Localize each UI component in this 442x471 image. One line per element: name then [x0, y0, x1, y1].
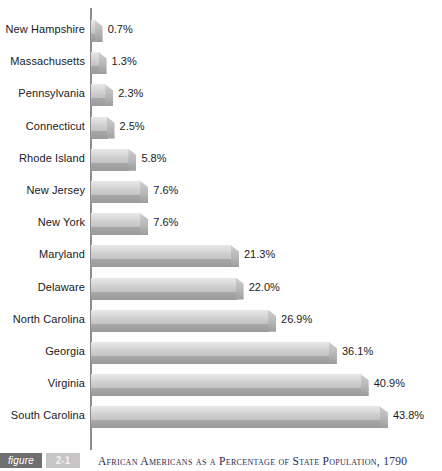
bar-category-label: Rhode Island: [0, 152, 85, 165]
bar-shadow-face: [91, 131, 108, 139]
bar-shadow-face: [91, 259, 232, 267]
bar-category-label: Delaware: [0, 281, 85, 294]
bar: [91, 117, 108, 141]
bar-category-label: Pennsylvania: [0, 87, 85, 100]
figure-caption-title: African Americans as a Percentage of Sta…: [98, 455, 407, 467]
bar-end-cap: [105, 84, 113, 106]
bar-shadow-face: [91, 388, 362, 396]
bar-end-cap: [268, 310, 276, 332]
bar: [91, 245, 232, 269]
bar-row: South Carolina43.8%: [0, 406, 442, 439]
bar-top-face: [91, 406, 381, 420]
bar-row: North Carolina26.9%: [0, 310, 442, 343]
figure-label-tag: figure: [0, 453, 42, 468]
bar-shadow-face: [91, 356, 330, 364]
bar-end-cap: [128, 149, 136, 171]
bar-top-face: [91, 213, 141, 227]
bar-row: New York7.6%: [0, 213, 442, 246]
bar-top-face: [91, 84, 106, 98]
bar-category-label: Georgia: [0, 345, 85, 358]
bar-top-face: [91, 310, 269, 324]
bar-category-label: Connecticut: [0, 120, 85, 133]
bar-end-cap: [236, 278, 244, 300]
bar: [91, 52, 100, 76]
bar-value-label: 43.8%: [393, 409, 424, 422]
bar-value-label: 40.9%: [374, 377, 405, 390]
bar-category-label: Maryland: [0, 248, 85, 261]
bar-shadow-face: [91, 324, 269, 332]
bar-end-cap: [99, 52, 107, 74]
bar: [91, 406, 381, 430]
bar-value-label: 7.6%: [153, 184, 178, 197]
bar-top-face: [91, 342, 330, 356]
bar-category-label: Massachusetts: [0, 55, 85, 68]
bar: [91, 342, 330, 366]
bar-row: Pennsylvania2.3%: [0, 84, 442, 117]
bar-row: Georgia36.1%: [0, 342, 442, 375]
bar-category-label: Virginia: [0, 377, 85, 390]
bar-value-label: 2.3%: [118, 87, 143, 100]
bar-end-cap: [231, 245, 239, 267]
bar: [91, 213, 141, 237]
bar-end-cap: [140, 181, 148, 203]
bar-value-label: 2.5%: [120, 120, 145, 133]
bar-value-label: 0.7%: [108, 23, 133, 36]
bar-top-face: [91, 245, 232, 259]
bar: [91, 278, 237, 302]
bar-value-label: 5.8%: [141, 152, 166, 165]
bar-value-label: 22.0%: [249, 281, 280, 294]
bar-shadow-face: [91, 98, 106, 106]
figure-number-tag: 2-1: [46, 453, 80, 468]
bar-shadow-face: [91, 66, 100, 74]
bar-category-label: New Jersey: [0, 184, 85, 197]
bar-end-cap: [95, 20, 103, 42]
bar: [91, 310, 269, 334]
bar-row: Rhode Island5.8%: [0, 149, 442, 182]
bar-row: Connecticut2.5%: [0, 117, 442, 150]
bar-end-cap: [380, 406, 388, 428]
bar: [91, 181, 141, 205]
bar-top-face: [91, 278, 237, 292]
bar-end-cap: [140, 213, 148, 235]
bar-row: Virginia40.9%: [0, 374, 442, 407]
bar: [91, 149, 129, 173]
bar-row: Massachusetts1.3%: [0, 52, 442, 85]
bar-value-label: 1.3%: [112, 55, 137, 68]
bar-top-face: [91, 374, 362, 388]
bar-shadow-face: [91, 195, 141, 203]
bar-shadow-face: [91, 163, 129, 171]
bar-category-label: South Carolina: [0, 409, 85, 422]
bar-end-cap: [361, 374, 369, 396]
bar-value-label: 7.6%: [153, 216, 178, 229]
bar-value-label: 21.3%: [244, 248, 275, 261]
bar: [91, 84, 106, 108]
figure-caption: figure 2-1 African Americans as a Percen…: [0, 450, 442, 471]
bar-shadow-face: [91, 227, 141, 235]
bar-category-label: North Carolina: [0, 313, 85, 326]
bar: [91, 20, 96, 44]
bar-value-label: 26.9%: [281, 313, 312, 326]
bar-top-face: [91, 149, 129, 163]
bar-row: New Jersey7.6%: [0, 181, 442, 214]
bar-row: Maryland21.3%: [0, 245, 442, 278]
bar-row: Delaware22.0%: [0, 278, 442, 311]
bar-category-label: New York: [0, 216, 85, 229]
bar-end-cap: [107, 117, 115, 139]
bar-shadow-face: [91, 292, 237, 300]
bar-category-label: New Hampshire: [0, 23, 85, 36]
bar-top-face: [91, 52, 100, 66]
bar: [91, 374, 362, 398]
bar-value-label: 36.1%: [342, 345, 373, 358]
bar-row: New Hampshire0.7%: [0, 20, 442, 53]
bar-end-cap: [329, 342, 337, 364]
bar-top-face: [91, 181, 141, 195]
bar-chart: New Hampshire0.7%Massachusetts1.3%Pennsy…: [0, 0, 442, 448]
bar-shadow-face: [91, 420, 381, 428]
bar-top-face: [91, 117, 108, 131]
figure-container: New Hampshire0.7%Massachusetts1.3%Pennsy…: [0, 0, 442, 471]
